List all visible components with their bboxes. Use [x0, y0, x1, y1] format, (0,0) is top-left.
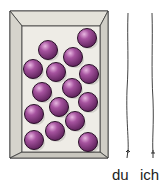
marble: [39, 41, 58, 60]
marble: [50, 98, 69, 117]
marble: [25, 105, 44, 124]
marble: [78, 29, 97, 48]
marble: [79, 133, 98, 152]
marble: [25, 131, 44, 150]
marble: [46, 122, 65, 141]
marble: [33, 83, 52, 102]
marble: [80, 65, 99, 84]
marble: [63, 79, 82, 98]
marble: [79, 93, 98, 112]
strings: [126, 13, 155, 158]
marble: [66, 112, 85, 131]
marble-box-illustration: [0, 0, 165, 188]
marble: [64, 48, 83, 67]
string-label-ich: ich: [140, 167, 159, 183]
string-label-du: du: [112, 167, 129, 183]
marble: [47, 63, 66, 82]
marble: [24, 60, 43, 79]
